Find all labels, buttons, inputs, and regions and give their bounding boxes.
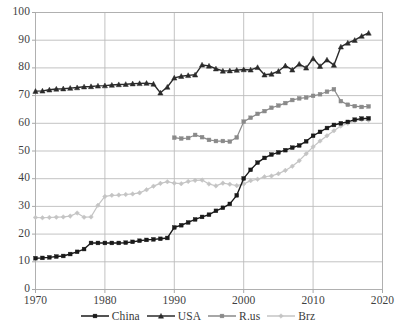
legend-swatch-rus-icon — [207, 310, 237, 322]
x-tick-1990: 1990 — [154, 294, 194, 306]
legend-label: Brz — [297, 310, 317, 322]
y-tick-30: 30 — [2, 199, 30, 211]
line-chart: 1009080706050403020100 19701980199020002… — [0, 0, 397, 333]
y-tick-10: 10 — [2, 254, 30, 266]
y-tick-40: 40 — [2, 171, 30, 183]
y-tick-100: 100 — [2, 5, 30, 17]
legend-label: China — [111, 310, 142, 322]
gridlines — [36, 13, 383, 290]
x-tick-2020: 2020 — [363, 294, 397, 306]
plot-area — [0, 0, 397, 333]
y-tick-50: 50 — [2, 144, 30, 156]
y-tick-60: 60 — [2, 116, 30, 128]
legend-swatch-china-icon — [80, 310, 110, 322]
legend-item-usa[interactable]: USA — [146, 310, 203, 322]
legend-item-brz[interactable]: Brz — [266, 310, 317, 322]
legend-label: R.us — [238, 310, 262, 322]
y-tick-20: 20 — [2, 227, 30, 239]
y-tick-90: 90 — [2, 33, 30, 45]
legend-item-rus[interactable]: R.us — [207, 310, 262, 322]
y-tick-70: 70 — [2, 88, 30, 100]
legend-item-china[interactable]: China — [80, 310, 142, 322]
x-tick-2010: 2010 — [293, 294, 333, 306]
x-tick-1980: 1980 — [85, 294, 125, 306]
x-tick-2000: 2000 — [224, 294, 264, 306]
legend-label: USA — [177, 310, 203, 322]
legend-swatch-brz-icon — [266, 310, 296, 322]
y-tick-0: 0 — [2, 282, 30, 294]
chart-legend: ChinaUSAR.usBrz — [0, 310, 397, 322]
y-tick-80: 80 — [2, 60, 30, 72]
x-tick-1970: 1970 — [16, 294, 56, 306]
legend-swatch-usa-icon — [146, 310, 176, 322]
